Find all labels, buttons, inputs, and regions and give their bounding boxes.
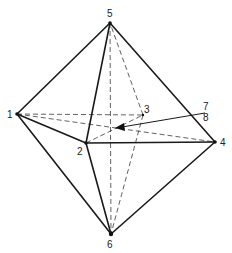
edge-4-6 (111, 142, 215, 234)
vertex-2 (84, 141, 88, 145)
label-3: 3 (144, 104, 150, 115)
vertex-6 (109, 232, 113, 236)
edge-5-4 (110, 23, 215, 142)
edge-2-3 (86, 115, 143, 143)
edge-1-6 (17, 114, 111, 234)
arrow-shaft (122, 113, 205, 127)
octahedron-svg: 5 1 2 3 4 6 7 8 (0, 0, 232, 253)
pointer-arrow (115, 113, 205, 131)
label-1: 1 (7, 109, 13, 120)
vertex-4 (213, 140, 217, 144)
edge-1-5 (17, 23, 110, 114)
edge-2-4 (86, 142, 215, 143)
label-2: 2 (77, 146, 83, 157)
octahedron-diagram: 5 1 2 3 4 6 7 8 (0, 0, 232, 253)
edge-5-6 (110, 23, 111, 234)
label-4: 4 (220, 137, 226, 148)
hidden-edges (17, 23, 215, 234)
vertex-1 (15, 112, 19, 116)
edge-3-6 (111, 115, 143, 234)
label-8: 8 (203, 112, 209, 123)
edge-3-5 (110, 23, 143, 115)
edge-1-3 (17, 114, 143, 115)
label-6: 6 (107, 239, 113, 250)
labels: 5 1 2 3 4 6 7 8 (7, 8, 226, 250)
label-5: 5 (107, 8, 113, 19)
vertex-5 (108, 21, 112, 25)
label-7: 7 (203, 101, 209, 112)
arrowhead-icon (115, 123, 125, 131)
edge-2-6 (86, 143, 111, 234)
edge-5-2 (86, 23, 110, 143)
